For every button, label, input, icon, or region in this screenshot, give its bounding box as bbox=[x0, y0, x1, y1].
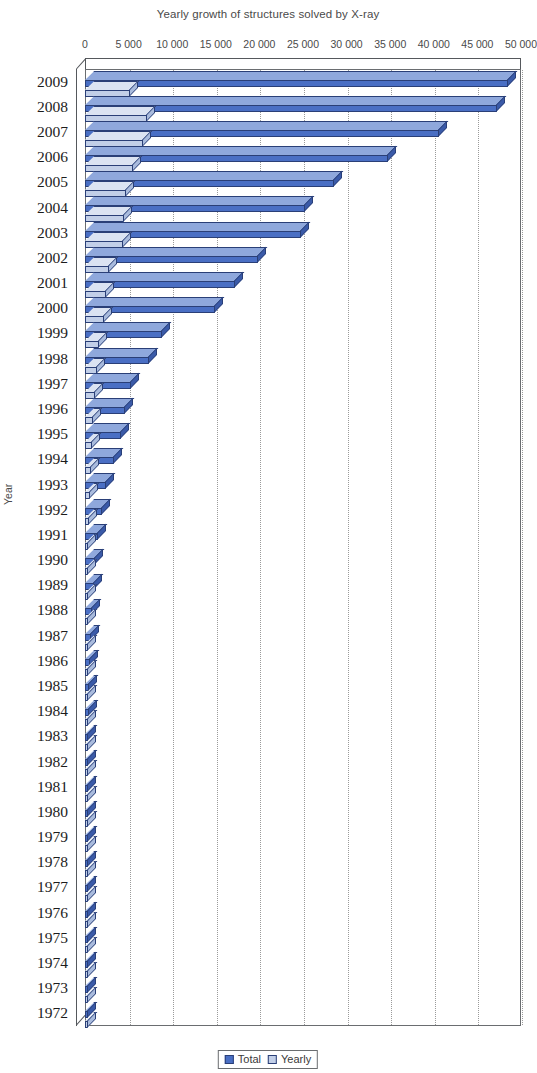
bar-top-face bbox=[85, 196, 314, 205]
bar-total-1982[interactable] bbox=[76, 750, 89, 757]
bar-total-1993[interactable] bbox=[76, 473, 107, 480]
bar-total-1997[interactable] bbox=[76, 373, 132, 380]
bar-total-1981[interactable] bbox=[76, 776, 89, 783]
bar-group bbox=[76, 245, 521, 270]
bar-total-1979[interactable] bbox=[76, 826, 89, 833]
bar-total-1974[interactable] bbox=[76, 952, 89, 959]
bar-yearly-1976[interactable] bbox=[76, 912, 89, 919]
bar-yearly-1991[interactable] bbox=[76, 534, 89, 541]
bar-yearly-1974[interactable] bbox=[76, 962, 89, 969]
bar-yearly-1997[interactable] bbox=[76, 383, 96, 390]
bar-yearly-1998[interactable] bbox=[76, 358, 98, 365]
bar-group bbox=[76, 346, 521, 371]
bar-total-1991[interactable] bbox=[76, 524, 99, 531]
bar-total-1987[interactable] bbox=[76, 625, 92, 632]
year-axis-label: 2003 bbox=[37, 225, 68, 241]
x-axis-tick-label: 30 000 bbox=[331, 38, 363, 50]
bar-yearly-1983[interactable] bbox=[76, 735, 89, 742]
bar-yearly-1988[interactable] bbox=[76, 609, 89, 616]
bar-yearly-1985[interactable] bbox=[76, 685, 89, 692]
bar-total-1985[interactable] bbox=[76, 675, 90, 682]
bar-group bbox=[76, 220, 521, 245]
bar-yearly-1986[interactable] bbox=[76, 660, 89, 667]
bar-front-face bbox=[85, 80, 508, 87]
bar-total-1978[interactable] bbox=[76, 851, 89, 858]
bar-yearly-1977[interactable] bbox=[76, 886, 89, 893]
bar-total-1989[interactable] bbox=[76, 574, 95, 581]
bar-top-face bbox=[85, 272, 244, 281]
bar-yearly-1996[interactable] bbox=[76, 408, 94, 415]
bar-yearly-1989[interactable] bbox=[76, 584, 89, 591]
bar-group bbox=[76, 522, 521, 547]
year-axis-label: 1998 bbox=[37, 351, 68, 367]
bar-total-1992[interactable] bbox=[76, 499, 103, 506]
bar-yearly-1987[interactable] bbox=[76, 635, 89, 642]
bar-yearly-2004[interactable] bbox=[76, 206, 125, 213]
bar-total-2008[interactable] bbox=[76, 96, 498, 103]
year-axis-label: 1973 bbox=[37, 980, 68, 996]
bar-total-1973[interactable] bbox=[76, 977, 89, 984]
bar-total-1996[interactable] bbox=[76, 398, 126, 405]
bar-yearly-1972[interactable] bbox=[76, 1012, 89, 1019]
bar-yearly-1975[interactable] bbox=[76, 937, 89, 944]
bar-yearly-1999[interactable] bbox=[76, 332, 100, 339]
bar-total-2005[interactable] bbox=[76, 171, 335, 178]
bar-total-1975[interactable] bbox=[76, 927, 89, 934]
bar-total-1976[interactable] bbox=[76, 902, 89, 909]
bar-total-1995[interactable] bbox=[76, 423, 122, 430]
bar-yearly-1973[interactable] bbox=[76, 987, 89, 994]
bar-yearly-1979[interactable] bbox=[76, 836, 89, 843]
bar-group bbox=[76, 396, 521, 421]
bar-total-1998[interactable] bbox=[76, 348, 150, 355]
bar-yearly-1980[interactable] bbox=[76, 811, 89, 818]
legend-label-total: Total bbox=[238, 1053, 261, 1065]
bar-yearly-1984[interactable] bbox=[76, 710, 89, 717]
bar-total-2009[interactable] bbox=[76, 71, 509, 78]
bar-total-2002[interactable] bbox=[76, 247, 259, 254]
bar-group bbox=[76, 447, 521, 472]
bar-total-2003[interactable] bbox=[76, 222, 302, 229]
bar-yearly-1978[interactable] bbox=[76, 861, 89, 868]
bar-group bbox=[76, 648, 521, 673]
bar-total-1977[interactable] bbox=[76, 876, 89, 883]
bar-yearly-2005[interactable] bbox=[76, 181, 127, 188]
bar-total-2004[interactable] bbox=[76, 196, 306, 203]
bar-total-2001[interactable] bbox=[76, 272, 236, 279]
bar-total-2007[interactable] bbox=[76, 121, 440, 128]
bar-top-face bbox=[85, 71, 517, 80]
bar-yearly-2006[interactable] bbox=[76, 156, 134, 163]
bar-total-1988[interactable] bbox=[76, 599, 93, 606]
bar-total-1972[interactable] bbox=[76, 1002, 89, 1009]
bar-total-1984[interactable] bbox=[76, 700, 90, 707]
legend-item-total[interactable]: Total bbox=[225, 1053, 261, 1065]
bar-total-1990[interactable] bbox=[76, 549, 96, 556]
bar-yearly-2007[interactable] bbox=[76, 131, 144, 138]
bar-yearly-1990[interactable] bbox=[76, 559, 89, 566]
bar-group bbox=[76, 673, 521, 698]
bar-yearly-2003[interactable] bbox=[76, 232, 124, 239]
year-axis-label: 1997 bbox=[37, 376, 68, 392]
year-axis-label: 1976 bbox=[37, 905, 68, 921]
bar-yearly-2009[interactable] bbox=[76, 81, 131, 88]
bar-total-1986[interactable] bbox=[76, 650, 91, 657]
bar-yearly-1981[interactable] bbox=[76, 786, 89, 793]
bar-group bbox=[76, 296, 521, 321]
bar-yearly-2002[interactable] bbox=[76, 257, 110, 264]
bar-total-2006[interactable] bbox=[76, 146, 389, 153]
bar-yearly-1992[interactable] bbox=[76, 509, 90, 516]
legend-item-yearly[interactable]: Yearly bbox=[268, 1053, 311, 1065]
bar-yearly-1982[interactable] bbox=[76, 760, 89, 767]
year-axis-label: 1992 bbox=[37, 502, 68, 518]
bar-yearly-2001[interactable] bbox=[76, 282, 107, 289]
bar-total-1994[interactable] bbox=[76, 448, 115, 455]
year-axis-label: 2008 bbox=[37, 99, 68, 115]
bar-yearly-1995[interactable] bbox=[76, 433, 93, 440]
bar-total-1983[interactable] bbox=[76, 725, 89, 732]
bar-yearly-2008[interactable] bbox=[76, 106, 148, 113]
bar-total-1999[interactable] bbox=[76, 322, 163, 329]
bar-total-1980[interactable] bbox=[76, 801, 89, 808]
bar-total-2000[interactable] bbox=[76, 297, 216, 304]
bar-yearly-1994[interactable] bbox=[76, 458, 92, 465]
bar-yearly-1993[interactable] bbox=[76, 483, 91, 490]
bar-yearly-2000[interactable] bbox=[76, 307, 105, 314]
